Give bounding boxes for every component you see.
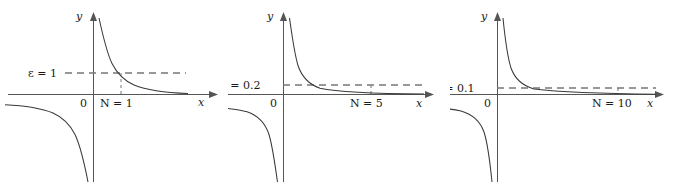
x-axis-label: x [416,97,423,110]
x-axis-arrow-icon [655,91,664,98]
origin-label: 0 [484,97,491,110]
n-label: N = 5 [350,97,383,110]
curve-positive-branch [99,18,188,94]
y-axis-arrow-icon [494,12,501,21]
panel-epsilon-01: y x 0 ε = 0.1 N = 10 [450,0,677,190]
panel-1-svg: y x 0 ε = 1 N = 1 [0,0,228,190]
epsilon-label: ε = 0.1 [450,82,474,95]
epsilon-label: ε = 1 [28,67,57,80]
curve-negative-branch [228,108,278,182]
y-axis-label: y [266,10,274,23]
x-axis-arrow-icon [425,91,434,98]
y-axis-arrow-icon [90,12,97,21]
y-axis-label: y [480,10,488,23]
curve-negative-branch [450,109,492,182]
y-axis-label: y [75,10,83,23]
panel-epsilon-1: y x 0 ε = 1 N = 1 [0,0,228,190]
origin-label: 0 [80,97,87,110]
panel-epsilon-02: y x 0 ε = 0.2 N = 5 [228,0,450,190]
y-axis-arrow-icon [280,12,287,21]
panel-3-svg: y x 0 ε = 0.1 N = 10 [450,0,677,190]
curve-negative-branch [5,105,88,182]
panel-2-svg: y x 0 ε = 0.2 N = 5 [228,0,450,190]
curve-positive-branch [290,18,425,94]
x-axis-arrow-icon [209,91,218,98]
curve-positive-branch [503,18,656,94]
figure-container: y x 0 ε = 1 N = 1 y x 0 [0,0,677,190]
epsilon-label: ε = 0.2 [228,79,260,92]
n-label: N = 1 [100,97,133,110]
origin-label: 0 [270,97,277,110]
n-label: N = 10 [592,97,632,110]
x-axis-label: x [198,96,205,109]
x-axis-label: x [647,97,654,110]
